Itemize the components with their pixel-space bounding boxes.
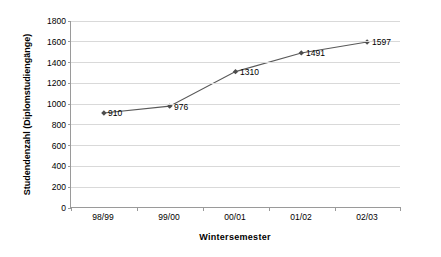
gridline	[71, 62, 400, 63]
data-point-label: 1491	[306, 49, 325, 58]
x-axis-title: Wintersemester	[70, 232, 400, 242]
y-axis-tick-mark	[68, 166, 71, 167]
data-point-label: 1597	[372, 38, 391, 47]
y-axis-tick-mark	[68, 145, 71, 146]
x-axis-tick-mark	[203, 207, 204, 211]
y-axis-tick-label: 1200	[32, 79, 66, 88]
gridline	[71, 21, 400, 22]
gridline	[71, 104, 400, 105]
y-axis-tick-labels: 020040060080010001200140016001800	[32, 0, 66, 257]
x-axis-tick-label: 01/02	[290, 212, 311, 222]
gridline	[71, 187, 400, 188]
x-axis-tick-mark	[269, 207, 270, 211]
y-axis-tick-mark	[68, 104, 71, 105]
y-axis-tick-mark	[68, 41, 71, 42]
data-point-marker	[233, 69, 238, 74]
y-axis-tick-label: 800	[32, 121, 66, 130]
y-axis-tick-mark	[68, 21, 71, 22]
x-axis-tick-label: 98/99	[92, 212, 113, 222]
y-axis-tick-label: 1400	[32, 58, 66, 67]
gridline	[71, 124, 400, 125]
x-axis-tick-mark	[335, 207, 336, 211]
y-axis-tick-label: 1600	[32, 38, 66, 47]
data-point-label: 1310	[240, 68, 259, 77]
y-axis-tick-mark	[68, 124, 71, 125]
y-axis-tick-mark	[68, 187, 71, 188]
series-polyline	[104, 42, 367, 113]
y-axis-tick-label: 1000	[32, 100, 66, 109]
x-axis-tick-label: 02/03	[356, 212, 377, 222]
x-axis-tick-labels: 98/9999/0000/0101/0202/03	[70, 212, 400, 226]
y-axis-tick-label: 600	[32, 141, 66, 150]
gridline	[71, 166, 400, 167]
x-axis-tick-label: 00/01	[224, 212, 245, 222]
y-axis-tick-label: 200	[32, 183, 66, 192]
x-axis-tick-mark	[137, 207, 138, 211]
y-axis-tick-label: 0	[32, 204, 66, 213]
x-axis-tick-mark	[400, 207, 401, 211]
x-axis-tick-label: 99/00	[158, 212, 179, 222]
y-axis-tick-label: 1800	[32, 17, 66, 26]
data-point-label: 976	[174, 103, 188, 112]
y-axis-tick-mark	[68, 62, 71, 63]
gridline	[71, 41, 400, 42]
gridline	[71, 145, 400, 146]
line-chart: Studendenzahl (Diplomstudiengänge) 02004…	[0, 0, 441, 257]
y-axis-tick-mark	[68, 83, 71, 84]
x-axis-tick-mark	[71, 207, 72, 211]
data-point-marker	[299, 50, 304, 55]
data-point-marker	[101, 110, 106, 115]
data-point-label: 910	[108, 109, 122, 118]
gridline	[71, 83, 400, 84]
y-axis-tick-label: 400	[32, 162, 66, 171]
